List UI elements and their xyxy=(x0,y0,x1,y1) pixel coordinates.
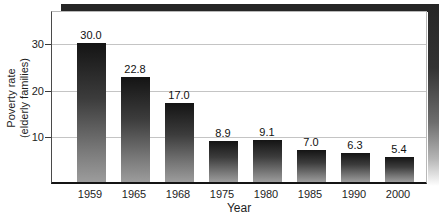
y-axis-title-line2: (elderly families) xyxy=(18,57,31,137)
y-tick-mark-20 xyxy=(45,91,51,92)
bar-1975 xyxy=(209,141,238,182)
bar-value-label-1968: 17.0 xyxy=(168,89,189,101)
bar-value-label-1990: 6.3 xyxy=(347,139,362,151)
y-tick-mark-10 xyxy=(45,137,51,138)
bar-value-label-1985: 7.0 xyxy=(303,136,318,148)
bar-1990 xyxy=(341,153,370,182)
bar-value-label-1959: 30.0 xyxy=(80,29,101,41)
y-axis-title-box: Poverty rate (elderly families) xyxy=(0,11,36,184)
chart-drop-shadow-right xyxy=(428,4,439,186)
x-axis-title: Year xyxy=(51,201,427,215)
y-axis-title-line1: Poverty rate xyxy=(5,57,18,137)
bar-1980 xyxy=(253,140,282,182)
bar-1959 xyxy=(77,43,106,182)
bar-value-label-2000: 5.4 xyxy=(391,143,406,155)
bar-1968 xyxy=(165,103,194,182)
bar-chart-figure: Poverty rate (elderly families) 10203030… xyxy=(0,0,439,217)
bar-1985 xyxy=(297,150,326,182)
bar-2000 xyxy=(385,157,414,182)
bar-value-label-1980: 9.1 xyxy=(259,126,274,138)
gridline-y-10 xyxy=(52,137,426,138)
x-tick-label-1975: 1975 xyxy=(210,188,234,200)
plot-area: 10203030.022.817.08.99.17.06.35.4 xyxy=(51,11,427,184)
y-tick-label-20: 20 xyxy=(14,85,44,97)
bar-1965 xyxy=(121,77,150,182)
x-tick-label-1985: 1985 xyxy=(298,188,322,200)
y-tick-mark-30 xyxy=(45,44,51,45)
gridline-y-20 xyxy=(52,91,426,92)
x-tick-label-1990: 1990 xyxy=(342,188,366,200)
y-tick-label-10: 10 xyxy=(14,131,44,143)
y-axis-title: Poverty rate (elderly families) xyxy=(5,57,31,137)
x-tick-label-1959: 1959 xyxy=(78,188,102,200)
x-tick-label-2000: 2000 xyxy=(386,188,410,200)
bar-value-label-1965: 22.8 xyxy=(124,63,145,75)
x-axis-tick-labels: 19591965196819751980198519902000 xyxy=(51,188,427,201)
bar-value-label-1975: 8.9 xyxy=(215,127,230,139)
x-tick-label-1965: 1965 xyxy=(122,188,146,200)
y-tick-label-30: 30 xyxy=(14,38,44,50)
x-tick-label-1968: 1968 xyxy=(166,188,190,200)
x-tick-label-1980: 1980 xyxy=(254,188,278,200)
gridline-y-30 xyxy=(52,44,426,45)
